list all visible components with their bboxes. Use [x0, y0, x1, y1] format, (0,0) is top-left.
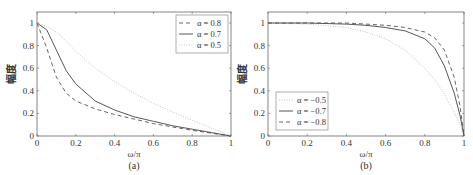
x-axis-label: ω/π: [128, 149, 141, 159]
x-tick-label: 0: [35, 138, 40, 148]
panel-label: (a): [128, 160, 139, 172]
y-tick-label: 0.8: [254, 41, 266, 51]
x-tick-label: 0.4: [341, 138, 353, 148]
figure: 00.20.40.60.8100.20.40.60.81ω/π(a)幅度α = …: [0, 0, 473, 175]
y-tick-label: 1: [261, 18, 266, 28]
legend-label: α = 0.7: [197, 29, 221, 39]
chart-panel-b: 00.20.40.60.8100.20.40.60.81ω/π(b)幅度α = …: [236, 12, 466, 172]
legend: α = 0.8α = 0.7α = 0.5: [176, 15, 228, 53]
x-tick-label: 0.2: [302, 138, 313, 148]
y-tick-label: 1: [30, 18, 35, 28]
x-tick-label: 0.8: [419, 138, 431, 148]
y-axis-label: 幅度: [5, 63, 17, 84]
legend-label: α = −0.5: [297, 95, 326, 105]
x-tick-label: 1: [229, 138, 234, 148]
legend-label: α = 0.8: [197, 18, 221, 28]
x-tick-label: 0: [266, 138, 271, 148]
y-axis-label: 幅度: [236, 63, 248, 84]
y-tick-label: 0.4: [254, 86, 266, 96]
panel-label: (b): [360, 160, 372, 172]
legend-label: α = −0.8: [297, 117, 326, 127]
x-tick-label: 0.6: [380, 138, 392, 148]
y-tick-label: 0.6: [23, 63, 35, 73]
y-tick-label: 0.6: [254, 63, 266, 73]
legend-label: α = −0.7: [297, 106, 326, 116]
y-tick-label: 0.2: [23, 108, 34, 118]
y-tick-label: 0: [30, 131, 35, 141]
x-tick-label: 0.6: [148, 138, 160, 148]
x-tick-label: 1: [462, 138, 467, 148]
x-tick-label: 0.2: [70, 138, 81, 148]
legend: α = −0.5α = −0.7α = −0.8: [276, 92, 328, 130]
y-tick-label: 0.4: [23, 86, 35, 96]
x-axis-label: ω/π: [360, 149, 373, 159]
y-tick-label: 0.2: [254, 108, 265, 118]
y-tick-label: 0.8: [23, 41, 35, 51]
y-tick-label: 0: [261, 131, 266, 141]
legend-label: α = 0.5: [197, 40, 221, 50]
x-tick-label: 0.8: [187, 138, 199, 148]
x-tick-label: 0.4: [109, 138, 121, 148]
chart-panel-a: 00.20.40.60.8100.20.40.60.81ω/π(a)幅度α = …: [5, 12, 233, 172]
